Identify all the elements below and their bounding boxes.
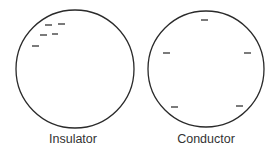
sphere-outline (148, 11, 264, 127)
conductor-label: Conductor (156, 132, 256, 146)
insulator-sphere (16, 10, 134, 128)
conductor-sphere (148, 11, 264, 127)
diagram-canvas (0, 0, 278, 154)
insulator-label: Insulator (23, 132, 123, 146)
sphere-outline (16, 10, 134, 128)
